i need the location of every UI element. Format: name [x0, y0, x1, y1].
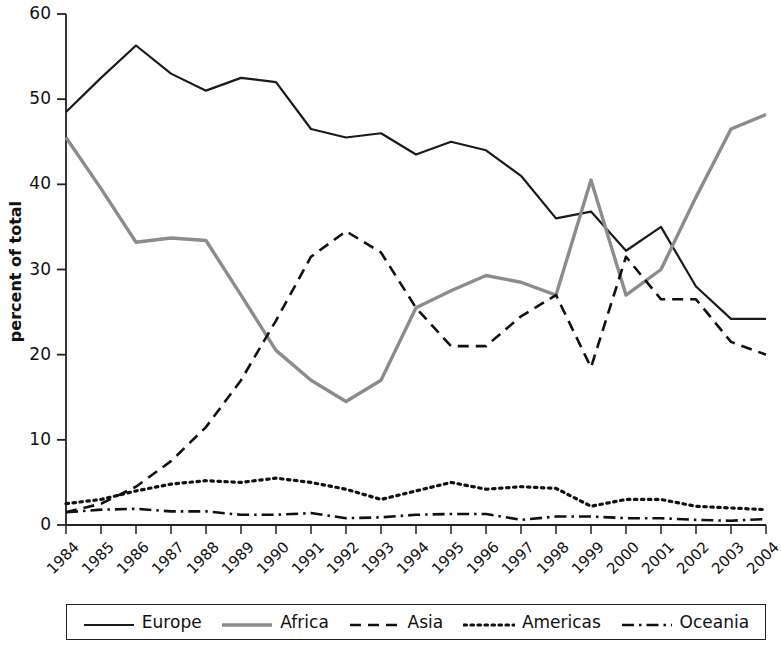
- legend-item-africa[interactable]: Africa: [221, 612, 329, 632]
- series-line-oceania: [66, 509, 766, 521]
- series-line-europe: [66, 46, 766, 319]
- plot-area: [0, 0, 781, 646]
- legend-swatch-oceania-icon: [621, 616, 673, 628]
- legend-item-oceania[interactable]: Oceania: [621, 612, 750, 632]
- legend-label: Americas: [522, 612, 601, 632]
- legend-swatch-asia-icon: [349, 616, 401, 628]
- legend-item-europe[interactable]: Europe: [83, 612, 202, 632]
- legend-label: Asia: [408, 612, 444, 632]
- chart-figure: percent of total 0102030405060 198419851…: [0, 0, 781, 646]
- legend-swatch-americas-icon: [463, 616, 515, 628]
- legend-row: EuropeAfricaAsiaAmericasOceania: [67, 605, 765, 639]
- legend-label: Oceania: [680, 612, 750, 632]
- legend-item-americas[interactable]: Americas: [463, 612, 601, 632]
- chart-legend: EuropeAfricaAsiaAmericasOceania: [66, 604, 766, 640]
- series-line-africa: [66, 115, 766, 402]
- series-line-asia: [66, 231, 766, 512]
- legend-swatch-europe-icon: [83, 616, 135, 628]
- legend-label: Africa: [280, 612, 329, 632]
- legend-item-asia[interactable]: Asia: [349, 612, 444, 632]
- legend-label: Europe: [142, 612, 202, 632]
- legend-swatch-africa-icon: [221, 616, 273, 628]
- series-line-americas: [66, 478, 766, 510]
